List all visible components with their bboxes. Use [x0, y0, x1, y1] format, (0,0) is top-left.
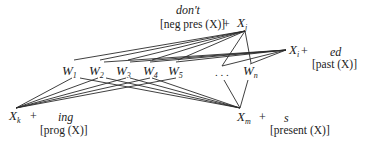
- node-xj: Xj: [237, 17, 247, 34]
- ing-gloss: [prog (X)]: [40, 124, 88, 136]
- ellipsis: . . .: [215, 66, 229, 78]
- node-w1: W1: [62, 65, 77, 82]
- node-wn: Wn: [243, 65, 258, 82]
- ed-morph: ed: [330, 46, 341, 58]
- node-xk: Xk: [9, 110, 21, 127]
- dont-gloss: [neg pres (X)]: [160, 18, 225, 30]
- ing-morph: ing: [58, 111, 73, 123]
- ed-gloss: [past (X)]: [312, 58, 357, 70]
- node-w5: W5: [168, 65, 183, 82]
- plus-sign: +: [30, 110, 37, 122]
- dont-morph: don't: [176, 4, 200, 16]
- node-w3: W3: [116, 65, 131, 82]
- plus-sign: +: [301, 45, 308, 57]
- node-xm: Xm: [237, 111, 251, 128]
- node-xi: Xi: [289, 44, 299, 61]
- s-morph: s: [284, 112, 289, 124]
- plus-sign: +: [259, 111, 266, 123]
- node-w4: W4: [143, 65, 158, 82]
- plus-sign: +: [223, 18, 230, 30]
- node-w2: W2: [89, 65, 104, 82]
- s-gloss: [present (X)]: [270, 124, 330, 136]
